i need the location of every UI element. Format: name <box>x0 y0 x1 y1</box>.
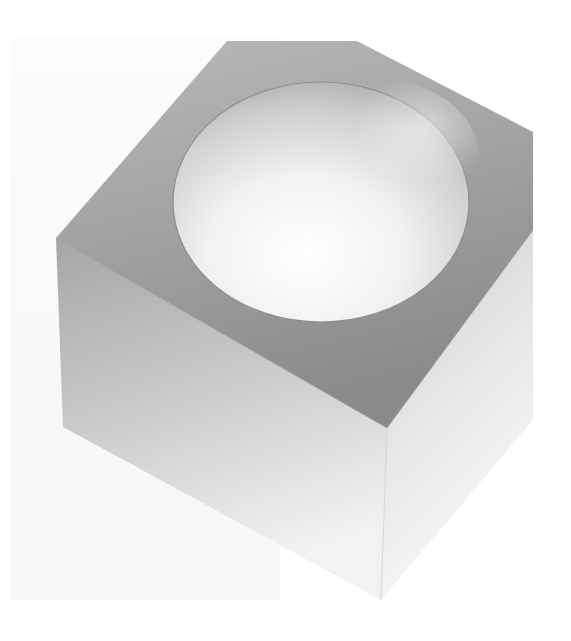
cavity-highlight <box>280 80 480 240</box>
photograph <box>0 0 571 641</box>
cube-illustration <box>0 0 571 641</box>
